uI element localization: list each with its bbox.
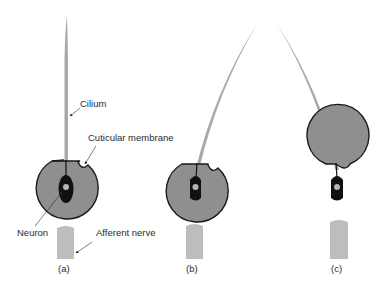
label-cilium: Cilium [80, 98, 106, 109]
arrow-cuticular-membrane [85, 146, 96, 164]
panel-c: (c) [277, 24, 369, 274]
afferent-nerve [330, 220, 348, 259]
arrow-cilium [70, 108, 80, 116]
label-afferent-nerve: Afferent nerve [96, 227, 156, 238]
cilium-shaft [196, 24, 258, 170]
label-neuron: Neuron [17, 227, 48, 238]
neuron-nucleus [193, 184, 199, 190]
arrow-afferent-nerve [76, 242, 92, 253]
cilium-shaft [65, 16, 69, 182]
cuticular-membrane-notch-left [52, 160, 64, 161]
neuron-nucleus [334, 184, 340, 190]
neuron-nucleus [63, 184, 69, 190]
socket-body [307, 104, 369, 168]
panel-b: (b) [166, 24, 257, 274]
label-cuticular-membrane: Cuticular membrane [88, 132, 174, 143]
afferent-nerve [57, 226, 74, 259]
afferent-nerve [186, 224, 203, 259]
panel-label-a: (a) [58, 263, 70, 274]
panel-label-b: (b) [186, 263, 198, 274]
sensillum-diagram: (a) Cilium Cuticular membrane Neuron Aff… [0, 0, 386, 290]
panel-label-c: (c) [331, 263, 342, 274]
